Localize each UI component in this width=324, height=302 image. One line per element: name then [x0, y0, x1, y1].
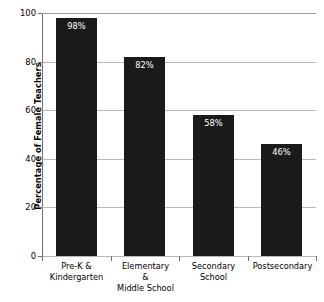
- x-category-line: Pre-K &: [42, 261, 111, 272]
- y-tick-label-60: 60: [0, 106, 36, 114]
- x-category-line: &: [111, 272, 180, 283]
- gridline-100: [42, 13, 316, 14]
- bar: 98%: [56, 18, 97, 256]
- x-category-label: Elementary&Middle School: [111, 261, 180, 293]
- plot-area: 98%82%58%46%: [42, 13, 316, 256]
- y-tick-mark-100: [38, 13, 42, 14]
- x-category-line: Kindergarten: [42, 272, 111, 283]
- bar: 58%: [193, 115, 234, 256]
- y-tick-label-20: 20: [0, 203, 36, 211]
- bar-chart: Percentage of Female Teachers 98%82%58%4…: [0, 0, 324, 302]
- x-category-label: Pre-K &Kindergarten: [42, 261, 111, 283]
- bar-value-label: 82%: [124, 61, 165, 70]
- x-category-line: Middle School: [111, 283, 180, 294]
- y-tick-label-80: 80: [0, 58, 36, 66]
- y-tick-mark-40: [38, 159, 42, 160]
- y-tick-mark-60: [38, 110, 42, 111]
- bar-value-label: 58%: [193, 119, 234, 128]
- y-tick-label-100: 100: [0, 9, 36, 17]
- bar-value-label: 98%: [56, 22, 97, 31]
- x-category-line: Postsecondary: [248, 261, 317, 272]
- y-tick-label-0: 0: [0, 252, 36, 260]
- bar: 46%: [261, 144, 302, 256]
- x-category-line: Secondary: [179, 261, 248, 272]
- x-category-label: Postsecondary: [248, 261, 317, 272]
- bar-value-label: 46%: [261, 148, 302, 157]
- y-tick-label-40: 40: [0, 155, 36, 163]
- bar: 82%: [124, 57, 165, 256]
- x-category-line: School: [179, 272, 248, 283]
- x-category-label: SecondarySchool: [179, 261, 248, 283]
- x-category-line: Elementary: [111, 261, 180, 272]
- y-tick-mark-80: [38, 62, 42, 63]
- y-tick-mark-20: [38, 207, 42, 208]
